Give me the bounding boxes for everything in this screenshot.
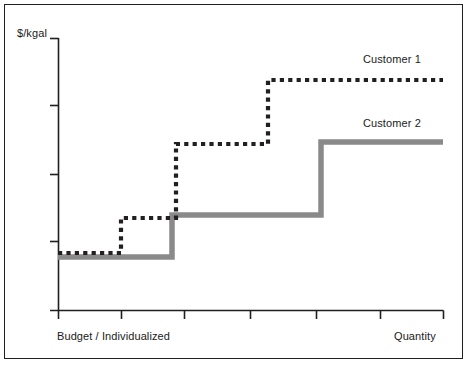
chart-figure: $/kgal Budget / Individualized Quantity …	[0, 0, 469, 365]
series-label-customer-2: Customer 2	[363, 117, 421, 129]
series-line-customer-2	[58, 142, 443, 257]
x-axis-right-label: Quantity	[394, 330, 436, 342]
series-label-customer-1: Customer 1	[363, 53, 421, 65]
series-line-customer-1	[58, 80, 443, 253]
x-axis-left-label: Budget / Individualized	[57, 330, 170, 342]
y-axis-label: $/kgal	[17, 27, 47, 39]
